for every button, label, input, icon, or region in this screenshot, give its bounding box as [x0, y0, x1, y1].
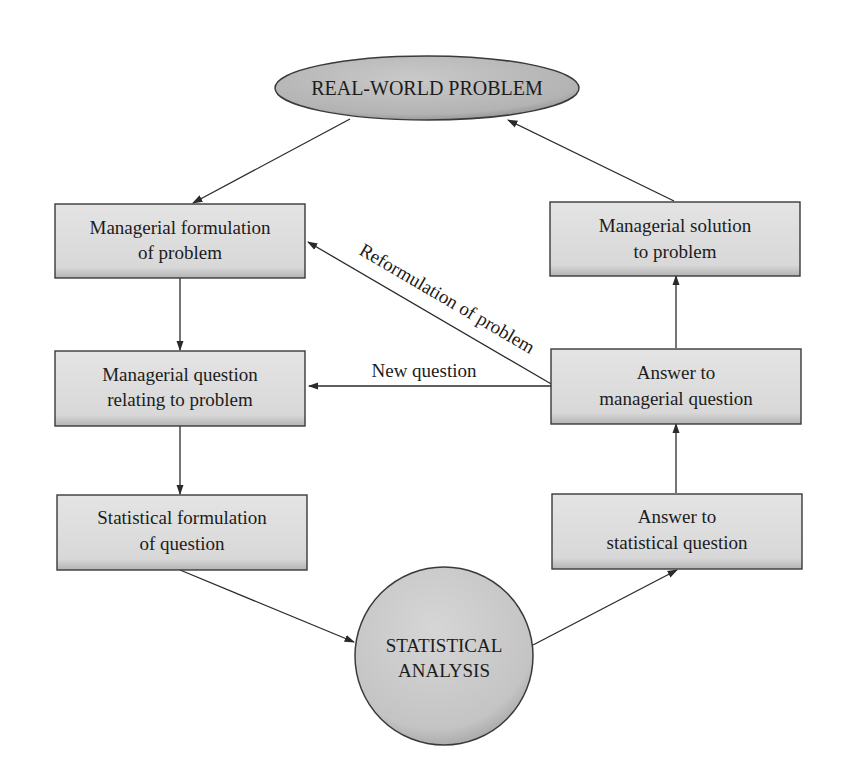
edge-label-reformulation: Reformulation of problem [356, 239, 539, 358]
node-label-line1: Managerial formulation [90, 217, 271, 238]
node-label-line1: Answer to [638, 506, 717, 527]
node-answer-managerial: Answer to managerial question [551, 349, 801, 424]
node-managerial-question: Managerial question relating to problem [55, 351, 305, 426]
edge-statistical-analysis-to-answer-statistical [533, 570, 677, 645]
node-managerial-formulation: Managerial formulation of problem [55, 204, 305, 278]
statistical-problem-solving-diagram: New question Reformulation of problem RE… [0, 0, 846, 768]
node-label-line2: to problem [634, 241, 717, 262]
node-real-world-problem: REAL-WORLD PROBLEM [275, 56, 579, 120]
node-statistical-analysis: STATISTICAL ANALYSIS [355, 567, 533, 745]
node-label-line2: relating to problem [107, 389, 253, 410]
node-label-line2: of problem [138, 242, 222, 263]
edge-managerial-solution-to-real-world [508, 120, 674, 201]
node-label-line2: statistical question [607, 532, 748, 553]
node-label-line1: STATISTICAL [386, 635, 503, 656]
node-managerial-solution: Managerial solution to problem [550, 202, 800, 276]
edge-label-new-question: New question [371, 360, 477, 381]
node-label-line2: ANALYSIS [398, 660, 490, 681]
edge-statistical-formulation-to-statistical-analysis [180, 570, 354, 642]
node-label: REAL-WORLD PROBLEM [311, 77, 543, 99]
node-label-line1: Statistical formulation [97, 507, 267, 528]
node-answer-statistical: Answer to statistical question [552, 494, 802, 569]
node-label-line1: Answer to [637, 362, 716, 383]
node-label-line1: Managerial question [102, 364, 258, 385]
node-label-line2: of question [140, 533, 225, 554]
edge-real-world-to-managerial-formulation [193, 119, 350, 203]
node-label-line1: Managerial solution [599, 215, 752, 236]
node-statistical-formulation: Statistical formulation of question [57, 495, 307, 570]
node-label-line2: managerial question [599, 388, 753, 409]
